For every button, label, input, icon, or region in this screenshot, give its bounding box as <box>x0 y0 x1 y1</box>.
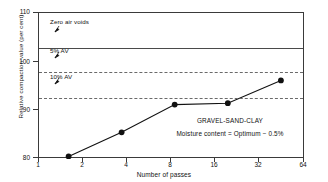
y-tick-label-80: 80 <box>14 154 30 161</box>
x-tick-label-8: 8 <box>160 161 180 168</box>
x-tick-label-1: 1 <box>28 161 48 168</box>
x-tick-label-32: 32 <box>248 161 268 168</box>
reference-line-5-av <box>39 72 303 73</box>
caption-moisture: Moisture content = Optimum − 0.5% <box>160 130 300 137</box>
caption-material: GRAVEL-SAND-CLAY <box>160 117 300 124</box>
label-zero-air-voids: Zero air voids <box>50 18 89 25</box>
label-10-av: 10% AV <box>50 73 72 80</box>
label-5-av: 5% AV <box>50 47 69 54</box>
data-series-gravel-sand-clay <box>39 13 305 159</box>
y-tick-label-100: 100 <box>14 58 30 65</box>
x-tick-label-16: 16 <box>204 161 224 168</box>
x-tick-label-2: 2 <box>72 161 92 168</box>
x-tick-label-4: 4 <box>116 161 136 168</box>
reference-line-10-av <box>39 98 303 99</box>
compaction-chart-figure: Relative compaction value (per cent) 110… <box>0 0 328 182</box>
reference-line-zero-air-voids <box>39 48 303 49</box>
x-axis-title: Number of passes <box>0 171 328 178</box>
y-axis-title: Relative compaction value (per cent) <box>17 0 24 135</box>
y-tick-label-110: 110 <box>14 8 30 15</box>
x-tick-label-64: 64 <box>293 161 313 168</box>
y-tick-label-90: 90 <box>14 106 30 113</box>
